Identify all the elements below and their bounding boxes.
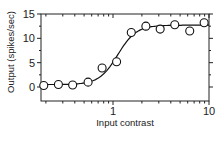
x-tick-label: 1 (110, 105, 116, 117)
data-point (171, 21, 179, 29)
data-points (40, 19, 208, 90)
data-point (113, 58, 121, 66)
y-tick-label: 0 (29, 81, 35, 93)
data-point (200, 19, 208, 27)
chart: 051015110 Input contrast Output (spikes/… (0, 0, 224, 142)
y-tick-label: 5 (29, 57, 35, 69)
y-axis-label: Output (spikes/sec) (5, 11, 16, 93)
x-tick-label: 10 (203, 105, 215, 117)
axis-ticks (37, 14, 213, 105)
plot-frame (41, 14, 209, 101)
fit-curve (41, 25, 209, 84)
data-point (54, 81, 62, 89)
data-point (98, 64, 106, 72)
data-point (69, 81, 77, 89)
y-tick-label: 10 (23, 32, 35, 44)
data-point (40, 82, 48, 90)
data-point (84, 78, 92, 86)
data-point (186, 27, 194, 35)
y-tick-label: 15 (23, 8, 35, 20)
data-point (127, 28, 135, 36)
x-axis-label: Input contrast (96, 117, 154, 128)
data-point (156, 25, 164, 33)
data-point (142, 22, 150, 30)
